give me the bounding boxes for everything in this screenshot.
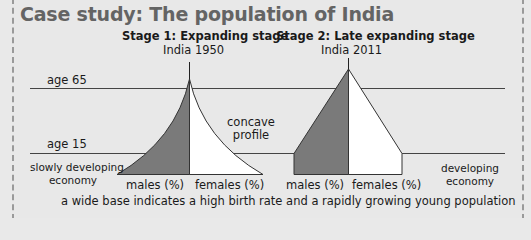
stage1-heading: Stage 1: Expanding stage [122,29,288,43]
stage2-economy-line2: economy [430,175,510,187]
stage1-economy-line1: slowly developing [30,161,116,173]
stage1-females-label: females (%) [195,178,264,192]
stage1-economy-line2: economy [30,174,116,186]
stage1-males-half [117,79,190,175]
caption: a wide base indicates a high birth rate … [61,194,516,208]
concave-label: concave [226,115,276,129]
stage2-economy-line1: developing [430,162,510,174]
stage2-females-label: females (%) [352,178,421,192]
stage2-males-label: males (%) [286,178,344,192]
stage2-pyramid [294,58,402,175]
stage2-males-half [294,69,349,175]
stage2-females-half [349,69,403,175]
age-65-label: age 65 [47,73,87,87]
stage2-heading: Stage 2: Late expanding stage [276,29,475,43]
profile-label: profile [226,128,276,142]
stage1-subheading: India 1950 [163,43,224,57]
stage2-subheading: India 2011 [321,43,382,57]
stage1-males-label: males (%) [126,178,184,192]
age-15-label: age 15 [47,137,87,151]
